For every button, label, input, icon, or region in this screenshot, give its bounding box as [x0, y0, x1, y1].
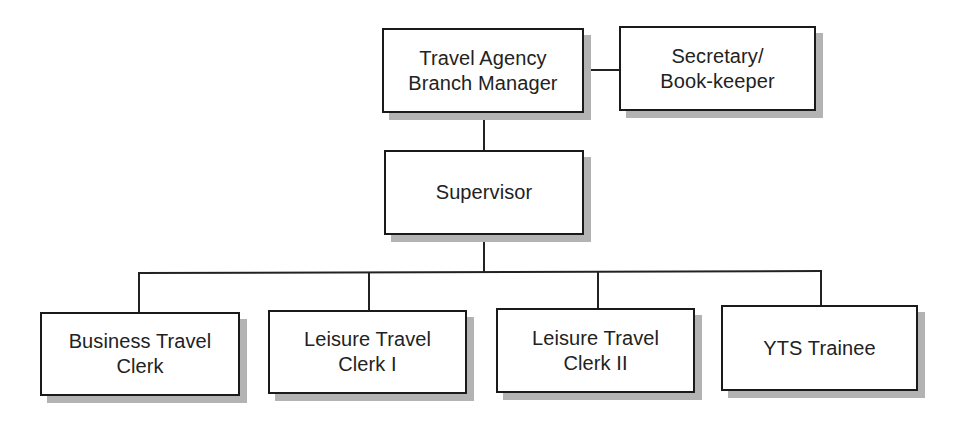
connector-supervisor-down	[483, 235, 485, 273]
connector-horizontal-bus	[138, 270, 821, 274]
node-label: Travel Agency Branch Manager	[408, 46, 557, 96]
org-chart: Travel Agency Branch Manager Secretary/ …	[0, 0, 953, 422]
connector-drop-business-clerk	[138, 273, 140, 312]
connector-drop-yts-trainee	[820, 270, 822, 305]
connector-drop-leisure-clerk-1	[368, 272, 370, 310]
node-label: Leisure Travel Clerk I	[304, 327, 431, 377]
connector-drop-leisure-clerk-2	[597, 271, 599, 308]
node-branch-manager: Travel Agency Branch Manager	[382, 28, 584, 113]
node-leisure-travel-clerk-1: Leisure Travel Clerk I	[268, 310, 467, 394]
connector-manager-secretary	[584, 69, 619, 71]
node-leisure-travel-clerk-2: Leisure Travel Clerk II	[496, 308, 695, 393]
node-secretary-bookkeeper: Secretary/ Book-keeper	[619, 26, 816, 111]
node-label: Business Travel Clerk	[69, 329, 212, 379]
node-label: Leisure Travel Clerk II	[532, 326, 659, 376]
node-label: Supervisor	[436, 180, 533, 205]
connector-manager-supervisor	[483, 113, 485, 150]
node-supervisor: Supervisor	[384, 150, 584, 235]
node-business-travel-clerk: Business Travel Clerk	[40, 312, 240, 396]
node-label: YTS Trainee	[763, 336, 875, 361]
node-yts-trainee: YTS Trainee	[721, 305, 918, 391]
node-label: Secretary/ Book-keeper	[660, 44, 775, 94]
